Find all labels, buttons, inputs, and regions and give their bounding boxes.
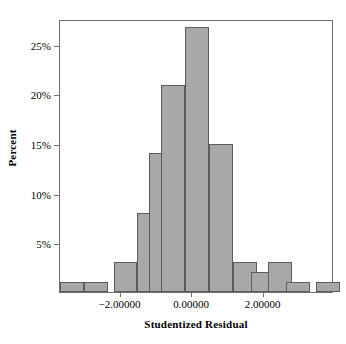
histogram-bar [286,282,310,292]
histogram-bar [209,144,233,292]
histogram-bar [84,282,108,292]
y-axis-tick-label: 10% [31,189,51,200]
histogram-bar [114,262,138,292]
plot-area: 25%20%15%10%5% −2.000000.000002.00000 [59,20,333,293]
x-axis-tick-mark [120,292,121,297]
y-axis-tick-mark [54,95,60,96]
y-axis-tick-label: 20% [31,90,51,101]
histogram-chart: Percent 25%20%15%10%5% −2.000000.000002.… [0,0,346,344]
x-axis-tick-label: 2.00000 [245,299,281,310]
y-axis-tick-label: 5% [36,239,51,250]
x-axis-tick-label: 0.00000 [173,299,209,310]
x-axis-title: Studentized Residual [144,318,247,330]
y-axis-tick-label: 15% [31,140,51,151]
bars-group [60,21,332,292]
x-axis-tick-mark [191,292,192,297]
y-axis-tick-mark [54,244,60,245]
histogram-bar [60,282,84,292]
histogram-bar [316,282,340,292]
y-axis-tick-mark [54,145,60,146]
histogram-bar [161,85,185,292]
x-axis-tick-label: −2.00000 [99,299,141,310]
y-axis-tick-label: 25% [31,40,51,51]
y-axis-title: Percent [6,129,18,166]
x-axis-tick-mark [263,292,264,297]
histogram-bar [185,27,209,292]
y-axis-tick-mark [54,195,60,196]
y-axis-tick-mark [54,46,60,47]
